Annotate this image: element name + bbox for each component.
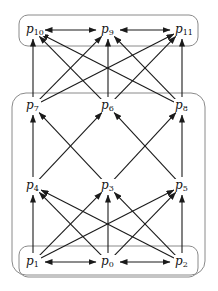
edges <box>33 30 182 262</box>
process-graph: p10p9p11p7p6p8p4p3p5p1p0p2 <box>0 0 218 291</box>
nodes: p10p9p11p7p6p8p4p3p5p1p0p2 <box>25 22 194 269</box>
